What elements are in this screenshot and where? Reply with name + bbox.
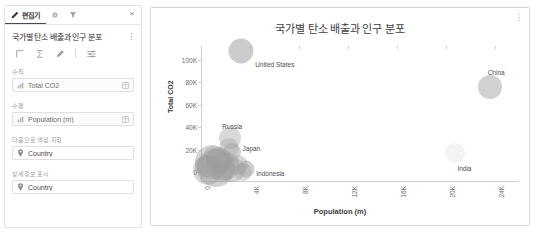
chart-panel: ⋮ 국가별 탄소 배출과 인구 분포 Total CO2 Population … <box>150 7 530 226</box>
pin-icon <box>17 150 24 157</box>
tab-editor[interactable]: 편집기 <box>5 7 46 24</box>
tab-editor-label: 편집기 <box>22 10 40 20</box>
field-horizontal-input[interactable]: Population (m) <box>12 112 134 126</box>
y-tick-mark <box>198 60 201 61</box>
table-icon[interactable] <box>121 81 129 89</box>
toolbar-divider <box>75 49 76 58</box>
close-icon[interactable]: × <box>127 9 137 19</box>
measure-icon <box>17 116 24 123</box>
brush-icon[interactable] <box>54 48 65 59</box>
axes-icon[interactable] <box>14 48 25 59</box>
y-tick-label: 20K <box>185 146 197 153</box>
data-point-bubble[interactable] <box>195 155 217 177</box>
field-vertical-input[interactable]: Total CO2 <box>12 78 134 92</box>
x-tick-label: 0 <box>204 186 211 190</box>
data-point-bubble[interactable] <box>478 75 502 99</box>
data-point-label: Indonesia <box>256 170 284 177</box>
sliders-icon[interactable] <box>86 48 97 59</box>
x-tick-label: 8K <box>302 186 309 194</box>
data-point-label: Japan <box>243 145 261 152</box>
x-tick-mark <box>299 46 300 49</box>
chart-options-kebab-icon[interactable]: ⋮ <box>127 33 135 41</box>
field-color-by-input[interactable]: Country <box>12 146 134 160</box>
spacer <box>5 126 141 133</box>
x-axis-label: Population (m) <box>151 207 529 216</box>
data-point-bubble[interactable] <box>445 143 465 163</box>
x-tick-label: 12K <box>351 186 358 198</box>
y-tick-mark <box>198 82 201 83</box>
spacer <box>5 160 141 167</box>
editor-panel: 편집기 × 국가별 탄소 배출과 인구 분포 ⋮ <box>4 5 142 228</box>
scatter-plot-area: 020K40K60K80K100K04K8K12K16K20K24KUnited… <box>201 46 519 181</box>
y-tick-label: 80K <box>185 79 197 86</box>
x-tick-mark <box>348 46 349 49</box>
tab-settings[interactable] <box>46 7 64 24</box>
y-tick-label: 100K <box>182 56 197 63</box>
field-horizontal: 수평 Population (m) <box>5 99 141 126</box>
y-tick-label: 40K <box>185 124 197 131</box>
field-vertical: 수직 Total CO2 <box>5 65 141 92</box>
data-point-bubble[interactable] <box>229 38 254 63</box>
field-color-by-value: Country <box>28 150 129 157</box>
x-tick-label: 24K <box>498 186 505 198</box>
data-point-label: Russia <box>222 123 242 130</box>
gear-icon <box>51 11 59 19</box>
field-detail: 상세정보 표시 Country <box>5 167 141 194</box>
field-horizontal-label: 수평 <box>12 101 134 110</box>
data-point-label: India <box>457 165 471 172</box>
data-point-label: China <box>488 69 505 76</box>
table-icon[interactable] <box>121 115 129 123</box>
tab-filter[interactable] <box>64 7 82 24</box>
field-detail-input[interactable]: Country <box>12 180 134 194</box>
x-tick-label: 20K <box>449 186 456 198</box>
x-tick-mark <box>397 46 398 49</box>
x-tick-label: 16K <box>400 186 407 198</box>
spacer <box>5 92 141 99</box>
editor-tabs: 편집기 × <box>5 6 141 25</box>
funnel-icon <box>69 11 77 19</box>
x-tick-mark <box>495 46 496 49</box>
chart-name-row: 국가별 탄소 배출과 인구 분포 ⋮ <box>5 25 141 46</box>
data-point-bubble[interactable] <box>234 163 252 181</box>
field-horizontal-value: Population (m) <box>28 116 117 123</box>
field-detail-value: Country <box>28 184 129 191</box>
y-axis-label: Total CO2 <box>167 80 174 113</box>
y-tick-label: 60K <box>185 101 197 108</box>
x-tick-mark <box>446 46 447 49</box>
field-vertical-value: Total CO2 <box>28 82 117 89</box>
chart-name: 국가별 탄소 배출과 인구 분포 <box>12 31 102 42</box>
chart-title: 국가별 탄소 배출과 인구 분포 <box>151 20 529 36</box>
measure-icon <box>17 82 24 89</box>
editor-toolbar <box>5 46 141 65</box>
data-point-label: United States <box>255 61 294 68</box>
x-axis-line <box>201 181 519 182</box>
x-tick-mark <box>201 46 202 49</box>
y-tick-mark <box>198 127 201 128</box>
pin-icon <box>17 184 24 191</box>
y-tick-mark <box>198 105 201 106</box>
field-color-by-label: 다음으로 색상 지정 <box>12 135 134 144</box>
pencil-icon <box>11 11 19 19</box>
x-tick-label: 4K <box>253 186 260 194</box>
field-color-by: 다음으로 색상 지정 Country <box>5 133 141 160</box>
field-detail-label: 상세정보 표시 <box>12 169 134 178</box>
field-vertical-label: 수직 <box>12 67 134 76</box>
sigma-icon[interactable] <box>34 48 45 59</box>
